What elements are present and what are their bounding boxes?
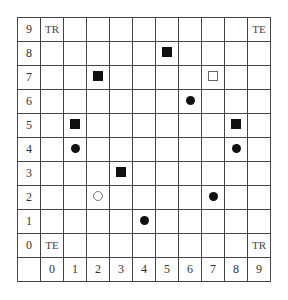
grid-cell [133,66,156,90]
grid-cell [156,234,179,258]
corner-label: TR [45,23,59,35]
grid-cell [64,138,87,162]
grid-cell [64,234,87,258]
corner-label: TE [252,23,265,35]
grid-cell [248,90,271,114]
grid-cell [248,186,271,210]
filled-circle-icon [232,144,241,153]
grid-cell [64,66,87,90]
grid-cell: TE [41,234,64,258]
row-label: 8 [18,42,41,66]
grid-cell [87,66,110,90]
grid-cell [202,162,225,186]
grid-cell [225,138,248,162]
filled-circle-icon [209,192,218,201]
grid-cell [133,162,156,186]
grid-cell: TR [41,18,64,42]
grid-cell [156,42,179,66]
grid-cell [87,234,110,258]
grid-cell [110,90,133,114]
grid-cell [133,18,156,42]
grid-cell: TR [248,234,271,258]
grid-cell [133,186,156,210]
grid-cell [225,66,248,90]
grid-cell [248,138,271,162]
row-label: 4 [18,138,41,162]
grid-cell [156,114,179,138]
grid-cell [225,210,248,234]
grid-cell [87,42,110,66]
grid-cell [156,186,179,210]
grid-cell [156,18,179,42]
grid-cell [41,210,64,234]
grid-cell [225,18,248,42]
filled-circle-icon [186,96,195,105]
grid-cell [133,90,156,114]
grid-cell [133,42,156,66]
grid-cell [179,114,202,138]
column-label: 9 [248,258,271,282]
filled-square-icon [231,119,241,129]
grid-cell [110,186,133,210]
grid-cell [41,162,64,186]
grid-cell [248,114,271,138]
column-labels-row: 0123456789 [18,258,271,282]
grid-cell [179,90,202,114]
grid-cell [110,66,133,90]
grid-cell [133,138,156,162]
column-label: 0 [41,258,64,282]
empty-corner-cell [18,258,41,282]
grid-cell [202,138,225,162]
grid-cell [87,138,110,162]
grid-row-1: 1 [18,210,271,234]
grid-cell [202,210,225,234]
grid-cell [41,114,64,138]
row-label: 0 [18,234,41,258]
grid-cell [156,210,179,234]
grid-cell [87,210,110,234]
grid-cell [110,162,133,186]
grid-cell [156,162,179,186]
grid-row-4: 4 [18,138,271,162]
grid-cell [110,18,133,42]
grid-cell [179,234,202,258]
grid-cell [225,186,248,210]
filled-square-icon [70,119,80,129]
grid-cell [225,90,248,114]
grid-row-2: 2 [18,186,271,210]
grid-cell [87,90,110,114]
grid-cell [156,66,179,90]
column-label: 8 [225,258,248,282]
grid-cell [202,114,225,138]
grid-cell [179,210,202,234]
grid-row-7: 7 [18,66,271,90]
grid-cell [64,162,87,186]
row-label: 6 [18,90,41,114]
grid-cell [202,90,225,114]
row-label: 3 [18,162,41,186]
grid-cell [202,18,225,42]
grid-row-0: 0TETR [18,234,271,258]
coordinate-grid: 9TRTE876543210TETR0123456789 [17,17,271,282]
filled-square-icon [162,47,172,57]
grid-cell [179,42,202,66]
grid-cell [202,186,225,210]
grid-cell [110,138,133,162]
grid-cell [156,138,179,162]
grid-cell: TE [248,18,271,42]
corner-label: TR [252,239,266,251]
grid-cell [202,66,225,90]
grid-cell [225,114,248,138]
filled-square-icon [116,167,126,177]
filled-circle-icon [140,216,149,225]
column-label: 1 [64,258,87,282]
grid-cell [41,66,64,90]
grid-cell [41,90,64,114]
filled-square-icon [93,71,103,81]
grid-cell [64,42,87,66]
column-label: 3 [110,258,133,282]
filled-circle-icon [71,144,80,153]
grid-cell [64,210,87,234]
grid-cell [225,162,248,186]
row-label: 9 [18,18,41,42]
